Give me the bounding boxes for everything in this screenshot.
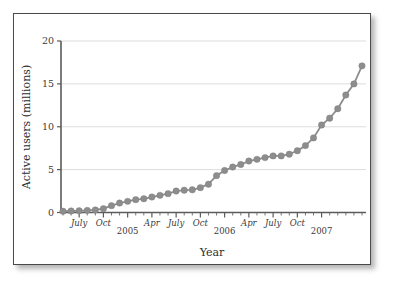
data-point-marker — [124, 198, 130, 204]
line-chart-svg: 05101520 JulyOct2005AprJulyOct2006AprJul… — [14, 14, 372, 266]
data-point-marker — [92, 207, 98, 213]
data-point-marker — [108, 202, 114, 208]
x-axis-tick-labels: JulyOct2005AprJulyOct2006AprJulyOct2007 — [69, 218, 332, 236]
data-point-marker — [133, 196, 139, 202]
data-point-marker — [294, 148, 300, 154]
y-axis-title: Active users (millions) — [20, 65, 33, 190]
x-axis-tick-label: Apr — [143, 218, 161, 228]
x-axis-tick-label: July — [69, 218, 88, 228]
data-point-marker — [262, 154, 268, 160]
data-point-marker — [270, 153, 276, 159]
x-axis-title: Year — [199, 246, 225, 259]
data-point-marker — [359, 63, 365, 69]
data-point-marker — [343, 92, 349, 98]
data-point-marker — [246, 158, 252, 164]
data-point-marker — [165, 190, 171, 196]
y-axis-tick-label: 0 — [48, 207, 54, 218]
data-point-marker — [302, 142, 308, 148]
x-axis-tick-label: 2007 — [311, 226, 333, 236]
data-point-marker — [181, 187, 187, 193]
data-point-marker — [84, 207, 90, 213]
data-point-marker — [197, 184, 203, 190]
data-point-marker — [286, 151, 292, 157]
chart-plot-area: 05101520 JulyOct2005AprJulyOct2006AprJul… — [14, 14, 370, 264]
x-axis-tick-label: 2006 — [214, 226, 236, 236]
data-point-marker — [318, 122, 324, 128]
x-axis-tick-label: Apr — [240, 218, 258, 228]
data-point-marker — [254, 156, 260, 162]
y-axis-tick-label: 10 — [42, 121, 54, 132]
y-axis-tick-labels: 05101520 — [42, 35, 54, 218]
chart-screenshot: 05101520 JulyOct2005AprJulyOct2006AprJul… — [0, 0, 396, 286]
y-axis-tick-label: 15 — [42, 78, 54, 89]
data-point-marker — [100, 205, 106, 211]
x-axis-tick-label: July — [263, 218, 282, 228]
x-axis-tick-label: Oct — [96, 218, 112, 228]
data-point-marker — [141, 196, 147, 202]
data-point-marker — [60, 208, 66, 214]
y-axis-tick-label: 5 — [48, 164, 54, 175]
data-point-marker — [213, 172, 219, 178]
data-point-marker — [310, 135, 316, 141]
data-point-marker — [116, 200, 122, 206]
data-point-marker — [76, 208, 82, 214]
series-line-active-users — [63, 66, 362, 211]
data-point-marker — [351, 81, 357, 87]
data-point-marker — [149, 194, 155, 200]
data-point-marker — [68, 208, 74, 214]
data-point-marker — [238, 161, 244, 167]
y-axis-tick-label: 20 — [42, 35, 54, 46]
data-point-marker — [278, 153, 284, 159]
data-point-marker — [326, 115, 332, 121]
data-point-marker — [335, 106, 341, 112]
x-axis-tick-label: 2005 — [117, 226, 139, 236]
x-axis-tick-label: Oct — [290, 218, 306, 228]
data-point-marker — [189, 187, 195, 193]
figure-frame: 05101520 JulyOct2005AprJulyOct2006AprJul… — [13, 13, 371, 265]
data-point-marker — [230, 164, 236, 170]
gridlines-group — [61, 41, 366, 170]
data-point-marker — [221, 167, 227, 173]
x-axis-tick-label: July — [166, 218, 185, 228]
data-point-marker — [173, 188, 179, 194]
x-axis-tick-label: Oct — [193, 218, 209, 228]
series-markers-group — [60, 63, 365, 215]
data-point-marker — [205, 181, 211, 187]
data-point-marker — [157, 192, 163, 198]
